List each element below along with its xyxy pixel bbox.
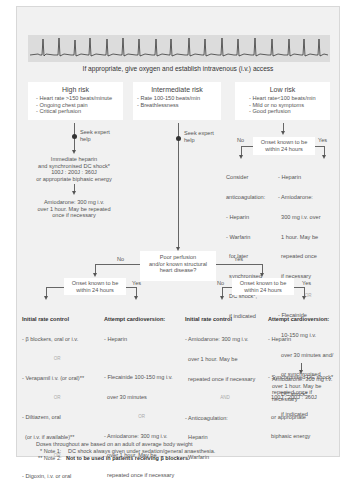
arrow-down-icon <box>302 296 306 300</box>
seek-help-dot-icon <box>176 136 181 141</box>
arrow-down-icon <box>93 273 97 277</box>
connector-line <box>126 287 136 288</box>
connector-line <box>178 123 179 248</box>
col1-title: Initial rate control <box>22 316 92 323</box>
arrow-down-icon <box>44 296 48 300</box>
note1-text: DC shock always given under sedation/gen… <box>68 448 215 455</box>
instruction-text: If appropriate, give oxygen and establis… <box>16 65 340 72</box>
ecg-strip <box>28 35 330 62</box>
connector-line <box>241 146 253 147</box>
note2-label: ** Note 2: <box>36 455 66 462</box>
ecg-waveform-icon <box>28 35 330 62</box>
col4-title: Attempt cardioversion: <box>268 316 334 323</box>
arrow-down-icon <box>134 296 138 300</box>
footer-notes: Doses throughout are based on an adult o… <box>36 441 215 461</box>
connector-line <box>294 287 304 288</box>
connector-line <box>222 287 232 288</box>
no-label: No <box>117 256 124 262</box>
high-risk-title: High risk <box>28 86 123 93</box>
arrow-down-icon <box>220 296 224 300</box>
col3-title: Initial rate control <box>185 316 265 323</box>
left-onset-decision: Onset known to be within 24 hours <box>64 278 126 295</box>
connector-line <box>95 264 140 265</box>
dose-note: Doses throughout are based on an adult o… <box>36 441 215 448</box>
seek-help-label: Seek expert help <box>184 130 214 143</box>
col4-attempt-cardioversion: Attempt cardioversion: - Heparin - Synch… <box>268 303 334 446</box>
low-risk-item: - Mild or no symptoms <box>249 102 330 109</box>
arrow-down-icon <box>322 155 326 159</box>
arrow-down-icon <box>281 131 285 135</box>
high-risk-step1: Immediate heparin and synchronised DC sh… <box>18 156 130 182</box>
connector-line <box>46 287 64 288</box>
high-risk-box: High risk - Heart rate >150 beats/minute… <box>28 82 123 120</box>
seek-help-dot-icon <box>72 134 77 139</box>
col4-after-step: Amiodarone: 300 mg i.v. over 1 hour. May… <box>272 376 334 402</box>
low-risk-box: Low risk - Heart rate<100 beats/min - Mi… <box>235 82 330 120</box>
note1-label: * Note 1: <box>36 448 68 455</box>
no-label: No <box>217 280 224 286</box>
note2-text: Not to be used in patients receiving β b… <box>66 455 189 462</box>
yes-label: Yes <box>302 280 311 286</box>
connector-line <box>315 146 324 147</box>
arrow-down-icon <box>299 370 303 374</box>
arrow-down-icon <box>260 273 264 277</box>
no-label: No <box>237 137 244 143</box>
arrow-down-icon <box>72 150 76 154</box>
high-risk-step2: Amiodarone: 300 mg i.v. over 1 hour. May… <box>18 199 130 219</box>
intermediate-risk-title: Intermediate risk <box>133 86 221 93</box>
high-risk-item: - Ongoing chest pain <box>36 102 123 109</box>
central-decision-box: Poor perfusion and/or known structural h… <box>140 251 216 281</box>
arrow-down-icon <box>239 155 243 159</box>
high-risk-item: - Critical perfusion <box>36 108 123 115</box>
low-risk-item: - Good perfusion <box>249 108 330 115</box>
yes-label: Yes <box>132 280 141 286</box>
intermediate-risk-item: - Rate 100-150 beats/min <box>137 95 221 102</box>
arrow-down-icon <box>72 191 76 195</box>
low-risk-no-branch: Consider anticoagulation: - Heparin - Wa… <box>226 161 274 326</box>
intermediate-risk-box: Intermediate risk - Rate 100-150 beats/m… <box>133 82 221 120</box>
yes-label: Yes <box>234 256 243 262</box>
connector-line <box>216 264 262 265</box>
low-risk-onset-decision: Onset known to be within 24 hours <box>253 137 315 155</box>
seek-help-label: Seek expert help <box>80 129 110 142</box>
yes-label: Yes <box>318 137 327 143</box>
high-risk-item: - Heart rate >150 beats/minute <box>36 95 123 102</box>
low-risk-item: - Heart rate<100 beats/min <box>249 95 330 102</box>
low-risk-title: Low risk <box>235 86 330 93</box>
connector-line <box>283 123 284 131</box>
col2-title: Attempt cardioversion: <box>104 316 179 323</box>
right-onset-decision: Onset known to be within 24 hours <box>232 278 294 295</box>
intermediate-risk-item: - Breathlessness <box>137 102 221 109</box>
